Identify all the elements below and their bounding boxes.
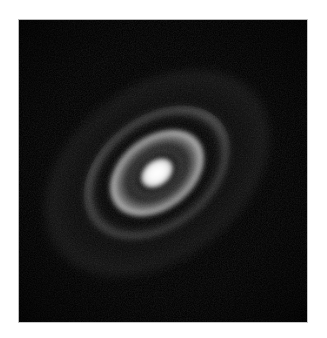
ring-b	[94, 113, 220, 234]
ring-d-outer	[29, 50, 286, 296]
figure-root: Greyscale astronomical continuum image o…	[0, 0, 327, 338]
sky-image-canvas	[19, 20, 307, 322]
ring-c	[60, 80, 254, 265]
inner-gap	[128, 145, 187, 201]
ring-c-bright-arc	[57, 78, 256, 269]
detector-noise-overlay	[19, 20, 307, 322]
sky-vignette	[19, 20, 307, 322]
gap-b-c	[85, 104, 228, 241]
ring-d-bright-arc	[26, 47, 289, 298]
central-core	[136, 153, 178, 193]
page-frame-right-rule	[307, 19, 308, 323]
figure-description: Greyscale astronomical continuum image o…	[0, 0, 1, 1]
page-frame-bottom-rule	[18, 322, 308, 323]
outer-dust-halo	[19, 28, 307, 317]
core-glow	[110, 128, 203, 217]
gap-c-d	[50, 71, 264, 275]
